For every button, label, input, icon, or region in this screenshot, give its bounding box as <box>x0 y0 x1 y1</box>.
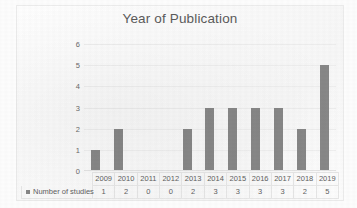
y-tick-label-4: 4 <box>58 82 80 91</box>
bar-2019 <box>320 65 329 171</box>
bar-cell-2018 <box>290 44 313 171</box>
bar-cell-2017 <box>267 44 290 171</box>
bar-cell-2009 <box>84 44 107 171</box>
chart-title: Year of Publication <box>16 11 344 26</box>
x-axis-line <box>84 170 336 171</box>
bar-cell-2019 <box>313 44 336 171</box>
bar-cell-2012 <box>153 44 176 171</box>
bar-cell-2010 <box>107 44 130 171</box>
table-header-2017: 2017 <box>271 173 293 186</box>
table-header-2013: 2013 <box>182 173 204 186</box>
bar-cell-2016 <box>244 44 267 171</box>
bar-2016 <box>251 108 260 172</box>
series-legend-label: Number of studies <box>22 186 93 199</box>
table-header-2019: 2019 <box>316 173 338 186</box>
table-value-2018: 2 <box>294 186 316 199</box>
table-value-2015: 3 <box>227 186 249 199</box>
data-table: 2009201020112012201320142015201620172018… <box>21 172 339 199</box>
y-tick-label-1: 1 <box>58 145 80 154</box>
bar-cell-2011 <box>130 44 153 171</box>
table-value-2009: 1 <box>93 186 115 199</box>
table-header-2018: 2018 <box>294 173 316 186</box>
table-value-2017: 3 <box>271 186 293 199</box>
bar-cell-2013 <box>176 44 199 171</box>
bar-series <box>84 44 336 171</box>
table-value-2014: 3 <box>204 186 226 199</box>
bar-cell-2015 <box>221 44 244 171</box>
legend-marker-icon <box>26 190 30 194</box>
table-value-2010: 2 <box>115 186 137 199</box>
plot-area <box>84 44 336 171</box>
table-header-2015: 2015 <box>227 173 249 186</box>
y-tick-label-5: 5 <box>58 61 80 70</box>
bar-2013 <box>183 129 192 171</box>
table-value-2011: 0 <box>137 186 159 199</box>
table-value-2013: 2 <box>182 186 204 199</box>
bar-2018 <box>297 129 306 171</box>
table-value-2016: 3 <box>249 186 271 199</box>
bar-2010 <box>114 129 123 171</box>
bar-2017 <box>274 108 283 172</box>
table-header-2010: 2010 <box>115 173 137 186</box>
series-name: Number of studies <box>33 187 94 196</box>
bar-cell-2014 <box>199 44 222 171</box>
bar-2009 <box>91 150 100 171</box>
y-tick-label-3: 3 <box>58 103 80 112</box>
table-corner-blank <box>22 173 93 186</box>
table-header-2012: 2012 <box>160 173 182 186</box>
table-row-values: Number of studies 12002333325 <box>22 186 339 199</box>
chart-screenshot: Year of Publication 0123456 200920102011… <box>0 0 357 208</box>
table-header-2014: 2014 <box>204 173 226 186</box>
y-tick-label-6: 6 <box>58 40 80 49</box>
bar-2015 <box>228 108 237 172</box>
table-row-years: 2009201020112012201320142015201620172018… <box>22 173 339 186</box>
bar-2014 <box>205 108 214 172</box>
table-value-2019: 5 <box>316 186 338 199</box>
table-header-2016: 2016 <box>249 173 271 186</box>
y-tick-label-2: 2 <box>58 124 80 133</box>
table-header-2009: 2009 <box>93 173 115 186</box>
table-value-2012: 0 <box>160 186 182 199</box>
table-header-2011: 2011 <box>137 173 159 186</box>
y-axis-labels: 0123456 <box>58 44 80 171</box>
